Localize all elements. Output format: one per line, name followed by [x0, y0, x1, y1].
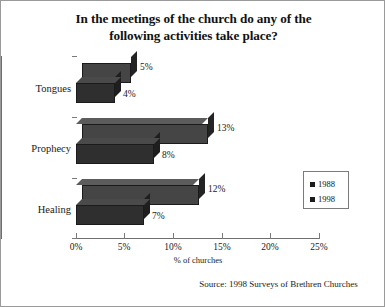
bar-face [76, 83, 115, 103]
x-axis-tick-label: 5% [104, 242, 144, 252]
chart-title-line-2: following activities take place? [31, 27, 356, 44]
x-axis-tick [270, 233, 271, 239]
bar-top-face [76, 118, 208, 124]
x-axis-tick [124, 233, 125, 239]
bar-side-face [144, 193, 150, 219]
legend-label-1998: 1998 [318, 194, 335, 204]
bar-top-face [76, 138, 160, 144]
y-axis-tick [72, 117, 77, 118]
category-axis-labels: Tongues Prophecy Healing [1, 1, 71, 307]
bar-top-face [76, 77, 121, 83]
bar-face [76, 205, 144, 225]
category-label-tongues: Tongues [1, 83, 71, 94]
legend-swatch-icon [310, 182, 315, 187]
source-note: Source: 1998 Surveys of Brethren Churche… [181, 279, 376, 289]
legend-item-1988[interactable]: 1988 [310, 179, 335, 189]
x-axis-tick [222, 233, 223, 239]
legend-swatch-icon [310, 197, 315, 202]
bar-face [76, 144, 154, 164]
value-label-prophecy-1988: 13% [217, 123, 234, 133]
bar-top-face [76, 179, 199, 185]
category-label-healing: Healing [1, 204, 71, 215]
bar-side-face [131, 51, 137, 77]
value-label-prophecy-1998: 8% [162, 150, 175, 160]
x-axis-tick [76, 233, 77, 239]
category-label-prophecy: Prophecy [1, 143, 71, 154]
x-axis-tick [319, 233, 320, 239]
bar-side-face [208, 112, 214, 138]
legend-item-1998[interactable]: 1998 [310, 194, 335, 204]
bar-side-face [154, 132, 160, 158]
chart-legend: 1988 1998 [303, 171, 349, 209]
bar-side-face [199, 173, 205, 199]
x-axis-tick-label: 10% [153, 242, 193, 252]
y-axis-tick [72, 56, 77, 57]
value-label-tongues-1988: 5% [140, 62, 153, 72]
y-axis-tick [72, 178, 77, 179]
value-label-tongues-1998: 4% [123, 89, 136, 99]
chart-title: In the meetings of the church do any of … [31, 10, 356, 44]
chart-title-line-1: In the meetings of the church do any of … [31, 10, 356, 27]
x-axis-title: % of churches [76, 255, 320, 265]
value-label-healing-1998: 7% [152, 211, 165, 221]
value-label-healing-1988: 12% [208, 184, 225, 194]
bar-top-face [76, 199, 150, 205]
x-axis-tick-label: 15% [202, 242, 242, 252]
x-axis-line [76, 238, 320, 239]
x-axis-tick [173, 233, 174, 239]
chart-figure: In the meetings of the church do any of … [0, 0, 385, 307]
bar-side-face [115, 71, 121, 97]
x-axis-tick-label: 25% [299, 242, 339, 252]
legend-label-1988: 1988 [318, 179, 335, 189]
x-axis-tick-label: 20% [250, 242, 290, 252]
